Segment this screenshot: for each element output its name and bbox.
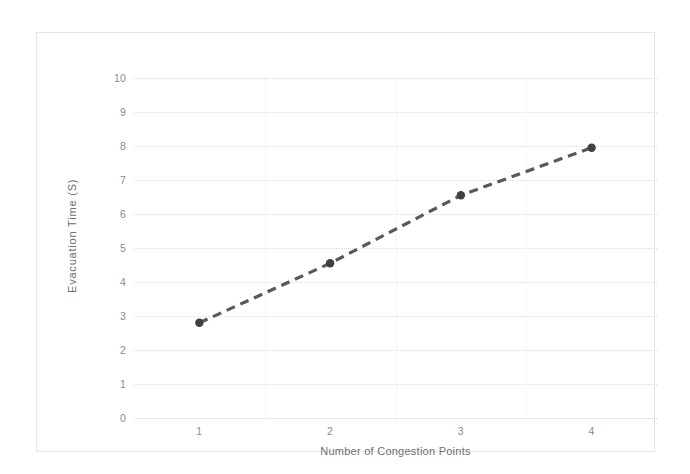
y-axis-title-label: Evacuation Time (S) bbox=[66, 113, 78, 293]
chart-frame: 012345678910 1234 Number of Congestion P… bbox=[36, 32, 655, 452]
y-tick-label: 4 bbox=[98, 277, 126, 288]
y-axis-tick-labels: 012345678910 bbox=[94, 78, 126, 418]
x-tick-label: 4 bbox=[572, 425, 612, 437]
x-tick-label: 3 bbox=[441, 425, 481, 437]
y-tick-label: 7 bbox=[98, 175, 126, 186]
data-point-marker bbox=[587, 144, 595, 152]
x-tick-label: 2 bbox=[310, 425, 350, 437]
y-axis-title: Evacuation Time (S) bbox=[66, 0, 78, 163]
y-tick-label: 3 bbox=[98, 311, 126, 322]
data-point-marker bbox=[195, 319, 203, 327]
data-point-marker bbox=[326, 259, 334, 267]
y-tick-label: 9 bbox=[98, 107, 126, 118]
y-tick-label: 6 bbox=[98, 209, 126, 220]
series-line bbox=[199, 148, 591, 323]
x-axis-title: Number of Congestion Points bbox=[134, 445, 657, 457]
y-tick-label: 0 bbox=[98, 413, 126, 424]
gridline-y-0 bbox=[134, 418, 657, 419]
y-tick-label: 8 bbox=[98, 141, 126, 152]
y-tick-label: 10 bbox=[98, 73, 126, 84]
data-point-marker bbox=[457, 191, 465, 199]
y-tick-label: 5 bbox=[98, 243, 126, 254]
x-tick-label: 1 bbox=[179, 425, 219, 437]
y-tick-label: 2 bbox=[98, 345, 126, 356]
x-axis-tick-labels: 1234 bbox=[134, 425, 657, 439]
chart-screenshot: 012345678910 1234 Number of Congestion P… bbox=[0, 0, 690, 474]
y-tick-label: 1 bbox=[98, 379, 126, 390]
data-series-line bbox=[134, 78, 657, 418]
plot-area bbox=[134, 78, 657, 418]
